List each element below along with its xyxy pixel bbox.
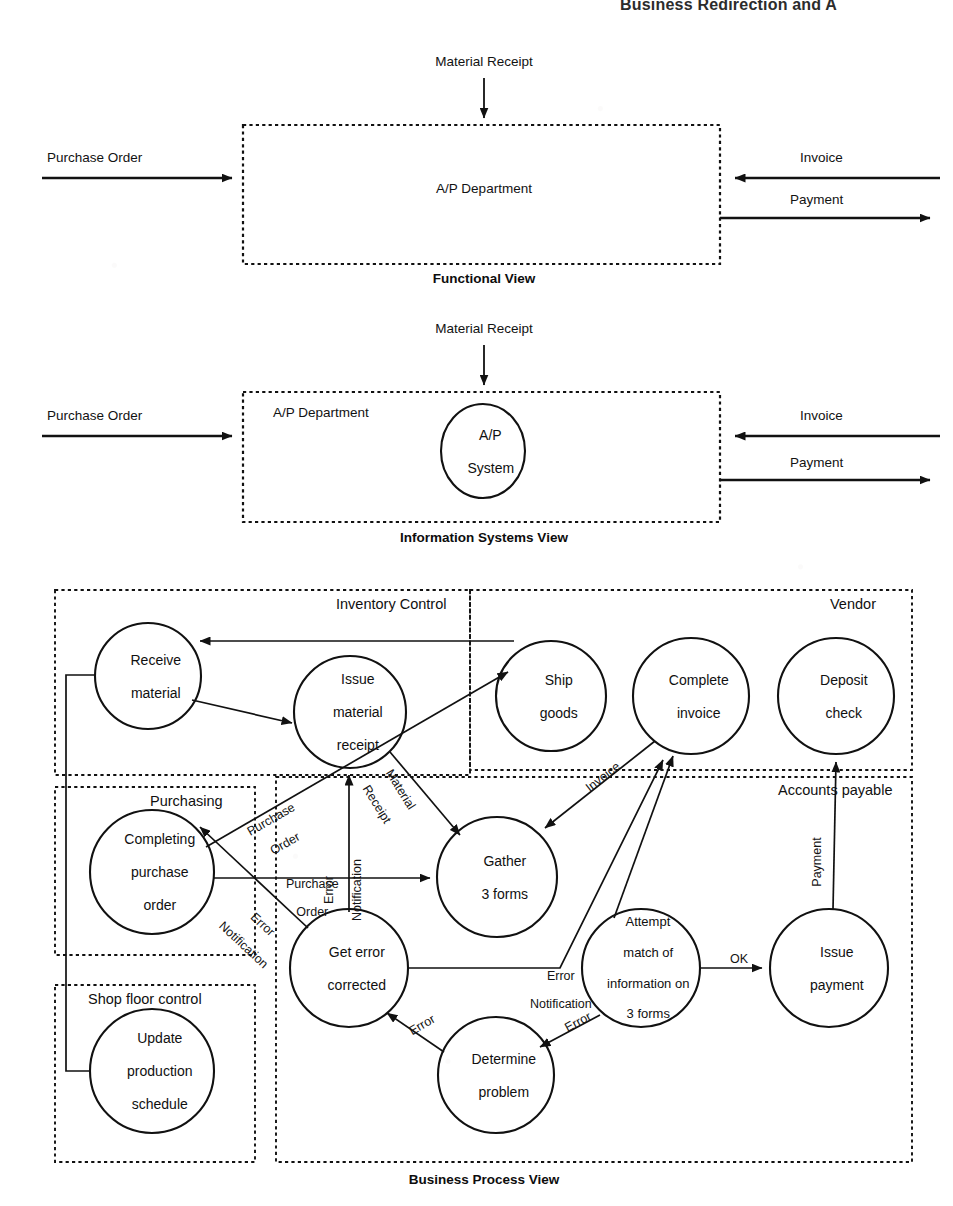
node-line: match of <box>623 945 673 960</box>
node-line: Complete <box>669 671 729 687</box>
functional-input-invoice-label: Invoice <box>800 150 843 166</box>
edge-label-error-notification-to-issue: Error Notification <box>308 859 378 935</box>
functional-input-purchase-order-label: Purchase Order <box>47 150 142 166</box>
node-complete-invoice: Complete invoice <box>653 655 728 738</box>
node-line: receipt <box>337 737 379 753</box>
swimlane-label-accounts-payable: Accounts payable <box>778 782 892 798</box>
swimlane-label-shop-floor-control: Shop floor control <box>88 991 202 1007</box>
node-line: material <box>131 684 181 700</box>
node-line: Ship <box>545 671 573 687</box>
node-line: schedule <box>132 1096 188 1112</box>
node-line: payment <box>810 976 864 992</box>
node-line: Update <box>137 1030 182 1046</box>
node-line: order <box>143 897 176 913</box>
node-line: Gather <box>483 852 526 868</box>
process-view-caption: Business Process View <box>409 1172 560 1187</box>
edge-line: Notification <box>350 859 364 921</box>
node-line: Deposit <box>820 671 867 687</box>
edge-line: Notification <box>530 997 592 1011</box>
node-line: problem <box>478 1083 529 1099</box>
node-line: goods <box>540 704 578 720</box>
edge-label-payment: Payment <box>810 837 824 886</box>
swimlane-label-vendor: Vendor <box>830 596 876 612</box>
node-line: Receive <box>130 651 181 667</box>
node-line: material <box>333 704 383 720</box>
node-line: corrected <box>328 976 386 992</box>
is-input-purchase-order-label: Purchase Order <box>47 408 142 424</box>
functional-view-caption: Functional View <box>433 271 536 286</box>
node-line: Completing <box>124 831 195 847</box>
edge-line: Error <box>248 910 278 939</box>
node-gather-3-forms: Gather 3 forms <box>466 836 528 919</box>
node-line: Get error <box>329 943 385 959</box>
functional-input-material-receipt-label: Material Receipt <box>435 54 533 70</box>
node-line: invoice <box>677 704 721 720</box>
edge-line: Material <box>383 767 418 812</box>
node-line: Issue <box>341 671 374 687</box>
node-receive-material: Receive material <box>115 635 181 718</box>
is-input-invoice-label: Invoice <box>800 408 843 424</box>
node-line: 3 forms <box>627 1006 670 1021</box>
edge-line: Order <box>268 830 303 858</box>
ap-system-line-1: A/P <box>479 426 502 442</box>
ap-system-node: A/P System <box>452 410 514 493</box>
node-line: Determine <box>471 1050 536 1066</box>
functional-output-payment-label: Payment <box>790 192 843 208</box>
node-issue-material-receipt: Issue material receipt <box>317 654 382 770</box>
edge-line: Receipt <box>360 783 394 826</box>
node-update-production-schedule: Update production schedule <box>112 1013 193 1129</box>
ap-system-line-2: System <box>467 459 514 475</box>
node-line: Issue <box>820 943 853 959</box>
node-line: 3 forms <box>481 885 528 901</box>
node-line: production <box>127 1063 192 1079</box>
edge-line: Error <box>547 969 575 983</box>
is-input-material-receipt-label: Material Receipt <box>435 321 533 337</box>
is-box-label: A/P Department <box>273 405 369 421</box>
is-output-payment-label: Payment <box>790 455 843 471</box>
node-deposit-check: Deposit check <box>804 655 867 738</box>
functional-box-label: A/P Department <box>436 181 532 197</box>
node-line: information on <box>607 976 689 991</box>
diagram-page: Business Redirection and A <box>0 0 953 1206</box>
is-view-caption: Information Systems View <box>400 530 568 545</box>
swimlane-label-inventory-control: Inventory Control <box>336 596 446 612</box>
node-line: purchase <box>131 864 189 880</box>
node-get-error-corrected: Get error corrected <box>312 927 386 1010</box>
node-ship-goods: Ship goods <box>524 655 578 738</box>
node-completing-purchase-order: Completing purchase order <box>109 814 195 930</box>
node-line: Attempt <box>625 914 670 929</box>
edge-line: Error <box>322 876 336 904</box>
swimlane-label-purchasing: Purchasing <box>150 793 223 809</box>
node-issue-payment: Issue payment <box>794 927 863 1010</box>
node-line: check <box>825 704 862 720</box>
node-attempt-match: Attempt match of information on 3 forms <box>593 899 690 1037</box>
node-determine-problem: Determine problem <box>456 1034 536 1117</box>
edge-label-ok: OK <box>730 952 748 966</box>
